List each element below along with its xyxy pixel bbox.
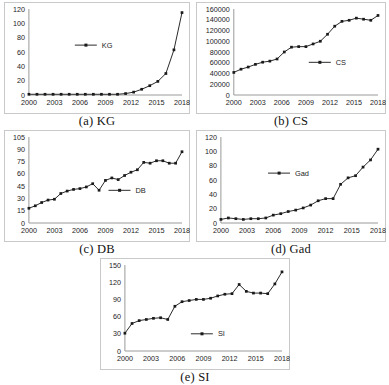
y-axis-tick-label: 30 bbox=[113, 329, 121, 338]
x-axis-tick-label: 2012 bbox=[318, 226, 334, 235]
y-axis-tick-label: 60 bbox=[209, 176, 217, 185]
data-point-marker bbox=[266, 292, 269, 295]
x-axis-tick-label: 2015 bbox=[346, 98, 362, 107]
x-axis-tick-label: 2012 bbox=[123, 226, 139, 235]
data-point-marker bbox=[124, 332, 127, 335]
data-point-marker bbox=[242, 218, 245, 221]
data-point-marker bbox=[377, 148, 380, 151]
data-point-marker bbox=[305, 45, 308, 48]
chart-caption-kg: (a) KG bbox=[4, 114, 190, 129]
x-axis-tick-label: 2003 bbox=[143, 354, 159, 363]
y-axis-tick-label: 90 bbox=[17, 145, 25, 154]
data-point-marker bbox=[377, 14, 380, 17]
data-point-marker bbox=[259, 292, 262, 295]
data-point-marker bbox=[355, 17, 358, 20]
y-axis-tick-label: 120 bbox=[109, 278, 121, 287]
data-point-marker bbox=[159, 316, 162, 319]
x-axis-tick-label: 2000 bbox=[21, 98, 37, 107]
y-axis-tick-label: 90 bbox=[113, 295, 121, 304]
data-point-marker bbox=[130, 171, 133, 174]
x-axis-tick-label: 2012 bbox=[123, 98, 139, 107]
x-axis-tick-label: 2003 bbox=[46, 98, 62, 107]
chart-panel-db: 0153045607590105200020032006200920122015… bbox=[4, 130, 190, 257]
chart-plot-db: 0153045607590105200020032006200920122015… bbox=[4, 130, 190, 242]
chart-caption-gad: (d) Gad bbox=[196, 242, 386, 257]
data-point-marker bbox=[138, 319, 141, 322]
data-point-marker bbox=[362, 166, 365, 169]
data-point-marker bbox=[319, 40, 322, 43]
data-point-marker bbox=[110, 177, 113, 180]
data-point-marker bbox=[348, 19, 351, 22]
x-axis-tick-label: 2009 bbox=[97, 98, 113, 107]
data-point-marker bbox=[188, 299, 191, 302]
y-axis-tick-label: 120 bbox=[13, 5, 25, 14]
data-point-marker bbox=[156, 80, 159, 83]
x-axis-tick-label: 2018 bbox=[370, 226, 386, 235]
legend-label: SI bbox=[218, 329, 225, 338]
x-axis-tick-label: 2000 bbox=[21, 226, 37, 235]
x-axis-tick-label: 2000 bbox=[226, 98, 242, 107]
chart-plot-si: 0306090120150200020032006200920122015201… bbox=[100, 258, 290, 370]
data-point-marker bbox=[209, 297, 212, 300]
y-axis-tick-label: 120000 bbox=[206, 26, 230, 35]
y-axis-tick-label: 40000 bbox=[210, 69, 230, 78]
data-point-marker bbox=[238, 283, 241, 286]
y-axis-tick-label: 60 bbox=[17, 169, 25, 178]
y-axis-tick-label: 100000 bbox=[206, 37, 230, 46]
data-point-marker bbox=[84, 93, 87, 96]
data-point-marker bbox=[333, 25, 336, 28]
chart-panel-cs: 0200004000060000800001000001200001400001… bbox=[196, 2, 386, 129]
chart-legend: Gad bbox=[268, 169, 309, 178]
y-axis-tick-label: 80 bbox=[17, 33, 25, 42]
x-axis-tick-label: 2000 bbox=[117, 354, 133, 363]
data-point-marker bbox=[98, 189, 101, 192]
data-point-marker bbox=[347, 177, 350, 180]
data-point-marker bbox=[269, 60, 272, 63]
data-point-marker bbox=[216, 295, 219, 298]
x-axis-tick-label: 2018 bbox=[274, 354, 290, 363]
data-point-marker bbox=[155, 159, 158, 162]
data-point-marker bbox=[124, 92, 127, 95]
data-point-marker bbox=[181, 11, 184, 14]
data-point-marker bbox=[72, 188, 75, 191]
x-axis-tick-label: 2015 bbox=[344, 226, 360, 235]
x-axis-tick-label: 2015 bbox=[148, 226, 164, 235]
chart-caption-cs: (b) CS bbox=[196, 114, 386, 129]
data-point-marker bbox=[281, 271, 284, 274]
y-axis-tick-label: 80000 bbox=[210, 48, 230, 57]
legend-label: DB bbox=[136, 186, 146, 195]
chart-legend: KG bbox=[75, 41, 113, 50]
chart-svg: 0204060801001202000200320062009201220152… bbox=[196, 130, 386, 242]
data-point-marker bbox=[354, 174, 357, 177]
data-point-marker bbox=[91, 182, 94, 185]
chart-legend: DB bbox=[109, 186, 146, 195]
data-point-marker bbox=[235, 217, 238, 220]
x-axis-tick-label: 2009 bbox=[97, 226, 113, 235]
data-point-marker bbox=[287, 210, 290, 213]
y-axis-tick-label: 15 bbox=[17, 206, 25, 215]
data-point-marker bbox=[36, 93, 39, 96]
data-point-marker bbox=[117, 178, 120, 181]
y-axis-tick-label: 60000 bbox=[210, 58, 230, 67]
data-point-marker bbox=[174, 162, 177, 165]
chart-svg: 0200004000060000800001000001200001400001… bbox=[196, 2, 386, 114]
data-point-marker bbox=[297, 45, 300, 48]
data-point-marker bbox=[252, 292, 255, 295]
data-point-marker bbox=[264, 217, 267, 220]
y-axis-tick-label: 45 bbox=[17, 182, 25, 191]
data-point-marker bbox=[148, 84, 151, 87]
y-axis-tick-label: 100 bbox=[205, 147, 217, 156]
y-axis-tick-label: 80 bbox=[209, 161, 217, 170]
data-point-marker bbox=[162, 159, 165, 162]
y-axis-tick-label: 120 bbox=[205, 133, 217, 142]
x-axis-tick-label: 2003 bbox=[250, 98, 266, 107]
chart-svg: 0204060801001202000200320062009201220152… bbox=[4, 2, 190, 114]
data-point-marker bbox=[272, 214, 275, 217]
data-point-marker bbox=[283, 51, 286, 54]
data-point-marker bbox=[166, 318, 169, 321]
data-point-marker bbox=[168, 162, 171, 165]
data-point-marker bbox=[312, 43, 315, 46]
y-axis-tick-label: 160000 bbox=[206, 5, 230, 14]
data-point-marker bbox=[181, 300, 184, 303]
